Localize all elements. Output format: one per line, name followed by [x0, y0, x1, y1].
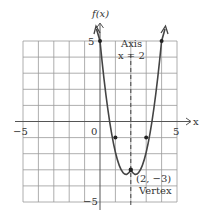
parabola-graph: f(x) x 5 −5 −5 5 0 Axis x = 2 (2, −3) Ve…	[0, 0, 208, 219]
axis-title: Axis	[120, 38, 142, 49]
tick-label-y-5: 5	[88, 36, 94, 47]
tick-label-x-5: 5	[173, 126, 179, 137]
x-axis-label: x	[193, 116, 199, 127]
vertex-point	[129, 168, 133, 172]
point-0-5	[98, 39, 102, 43]
axis-equation: x = 2	[118, 50, 145, 61]
point-4-5	[160, 39, 164, 43]
vertex-label: Vertex	[138, 185, 172, 196]
point-3-neg1	[144, 136, 148, 140]
tick-label-y-neg5: −5	[83, 196, 98, 207]
tick-label-x-neg5: −5	[13, 126, 28, 137]
vertex-coords: (2, −3)	[136, 173, 171, 184]
origin-label: 0	[91, 126, 97, 137]
y-axis-label: f(x)	[91, 8, 109, 19]
point-1-neg1	[113, 136, 117, 140]
